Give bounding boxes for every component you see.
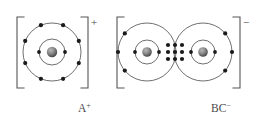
left-bracket-close (81, 17, 88, 88)
atom-b-inner-electron (157, 50, 161, 54)
shared-electron (173, 57, 177, 61)
left-outer-electron (61, 23, 65, 27)
atom-c-inner-electron (213, 50, 217, 54)
left-ion-charge: + (91, 16, 97, 28)
atom-c-outer-electron (223, 31, 227, 35)
left-outer-electron (77, 39, 81, 43)
shared-electron (166, 43, 170, 47)
right-ion-charge: − (243, 16, 249, 28)
atom-b-nucleus (142, 47, 152, 57)
left-ion-group: + (17, 16, 97, 88)
shared-electron (180, 57, 184, 61)
left-outer-electron (77, 61, 81, 65)
left-ion-label: A+ (78, 101, 91, 115)
shared-electron (173, 50, 177, 54)
shared-electron-cluster (166, 43, 184, 61)
atom-c-inner-electron (189, 50, 193, 54)
left-inner-electron (37, 50, 41, 54)
right-bracket-close (233, 17, 240, 88)
atom-b-outer-electron (116, 50, 120, 54)
atom-c-outer-electron (230, 50, 234, 54)
left-outer-electron (23, 61, 27, 65)
atom-c-outer-electron (223, 69, 227, 73)
shared-electron (173, 43, 177, 47)
shared-electron (166, 57, 170, 61)
atom-c-nucleus (198, 47, 208, 57)
right-ion-label: BC− (211, 101, 231, 115)
left-ion-label-superscript: + (86, 101, 91, 110)
lewis-dot-diagram: + − (0, 0, 259, 120)
right-ion-group: − (116, 16, 249, 88)
shared-electron (180, 50, 184, 54)
shared-electron (166, 50, 170, 54)
left-nucleus (47, 47, 57, 57)
right-ion-label-base: BC (211, 102, 227, 114)
atom-b-outer-electron (123, 69, 127, 73)
left-inner-electron (63, 50, 67, 54)
right-ion-label-superscript: − (226, 101, 231, 110)
left-outer-electron (23, 39, 27, 43)
diagram-canvas: + − (0, 0, 259, 120)
shared-electron (180, 43, 184, 47)
atom-b-outer-electron (123, 31, 127, 35)
labels-group: A+ BC− (78, 101, 231, 115)
left-outer-electron (39, 23, 43, 27)
atom-b-inner-electron (133, 50, 137, 54)
left-outer-electron (39, 77, 43, 81)
left-outer-electron (61, 77, 65, 81)
